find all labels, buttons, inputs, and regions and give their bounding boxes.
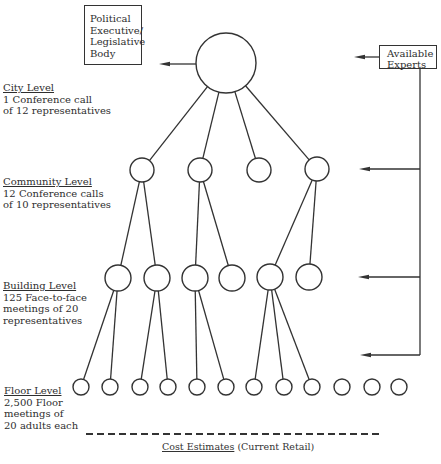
edge-city-to-community: [246, 86, 310, 160]
edge-building-to-floor: [272, 290, 283, 379]
political-line: Executive/: [90, 25, 141, 37]
floor-node: [246, 379, 262, 395]
community-level-label: Community Level 12 Conference calls of 1…: [3, 176, 111, 211]
floor-node: [189, 379, 205, 395]
edge-building-to-floor: [111, 291, 117, 379]
building-node: [296, 264, 322, 290]
edge-community-to-building: [310, 181, 316, 264]
community-level-title: Community Level: [3, 176, 111, 188]
building-level-label: Building Level 125 Face-to-face meetings…: [3, 280, 87, 326]
political-executive-legislative-box: Political Executive/ Legislative Body: [84, 5, 142, 65]
cost-estimates-subtitle: (Current Retail): [234, 441, 314, 452]
floor-node: [334, 379, 350, 395]
building-node: [182, 265, 208, 291]
edge-city-to-community: [149, 87, 207, 161]
floor-node: [102, 379, 118, 395]
floor-level-label: Floor Level 2,500 Floor meetings of 20 a…: [4, 385, 78, 431]
edge-building-to-floor: [255, 290, 268, 379]
edge-building-to-floor: [84, 290, 114, 379]
edge-building-to-floor: [141, 291, 155, 379]
building-level-desc: meetings of 20: [3, 303, 87, 315]
building-node: [105, 265, 131, 291]
arrowhead-icon: [359, 167, 370, 172]
building-node: [257, 264, 283, 290]
edge-building-to-floor: [199, 291, 224, 380]
building-level-desc: 125 Face-to-face: [3, 292, 87, 304]
cost-estimates-caption: Cost Estimates (Current Retail): [162, 441, 314, 452]
political-line: Legislative: [90, 36, 141, 48]
floor-level-desc: 20 adults each: [4, 420, 78, 432]
community-node: [188, 158, 212, 182]
edge-building-to-floor: [195, 291, 197, 379]
edge-city-to-community: [203, 92, 219, 158]
city-level-label: City Level 1 Conference call of 12 repre…: [3, 82, 111, 117]
city-level-desc: 1 Conference call: [3, 94, 111, 106]
floor-node: [304, 379, 320, 395]
community-node: [247, 158, 271, 182]
tree-nodes: [73, 33, 407, 395]
city-node: [196, 33, 256, 93]
building-node: [144, 265, 170, 291]
arrowhead-icon: [358, 275, 369, 280]
floor-node: [276, 379, 292, 395]
community-node: [130, 158, 154, 182]
community-node: [305, 157, 329, 181]
arrowhead-icon: [360, 353, 371, 358]
building-node: [219, 265, 245, 291]
political-line: Political: [90, 13, 141, 25]
floor-node: [391, 379, 407, 395]
edge-community-to-building: [121, 182, 140, 266]
arrowhead-icon: [354, 55, 365, 60]
arrowhead-icon: [159, 62, 170, 67]
city-level-desc: of 12 representatives: [3, 105, 111, 117]
experts-line: Available: [387, 48, 436, 59]
edge-community-to-building: [275, 180, 312, 265]
edge-community-to-building: [203, 182, 228, 266]
available-experts-box: Available Experts: [379, 45, 437, 69]
experts-line: Experts: [387, 59, 436, 70]
community-level-desc: 12 Conference calls: [3, 188, 111, 200]
edge-building-to-floor: [275, 289, 310, 379]
floor-level-desc: 2,500 Floor: [4, 397, 78, 409]
building-level-desc: representatives: [3, 315, 87, 327]
floor-level-title: Floor Level: [4, 385, 78, 397]
cost-estimates-title: Cost Estimates: [162, 441, 234, 452]
political-line: Body: [90, 48, 141, 60]
edge-city-to-community: [235, 92, 256, 159]
floor-node: [364, 379, 380, 395]
edge-community-to-building: [144, 182, 156, 265]
community-level-desc: of 10 representatives: [3, 199, 111, 211]
tree-edges: [84, 86, 317, 380]
floor-node: [132, 379, 148, 395]
edge-building-to-floor: [158, 291, 167, 379]
floor-node: [218, 379, 234, 395]
city-level-title: City Level: [3, 82, 111, 94]
floor-level-desc: meetings of: [4, 408, 78, 420]
edge-community-to-building: [196, 182, 200, 265]
floor-node: [160, 379, 176, 395]
building-level-title: Building Level: [3, 280, 87, 292]
